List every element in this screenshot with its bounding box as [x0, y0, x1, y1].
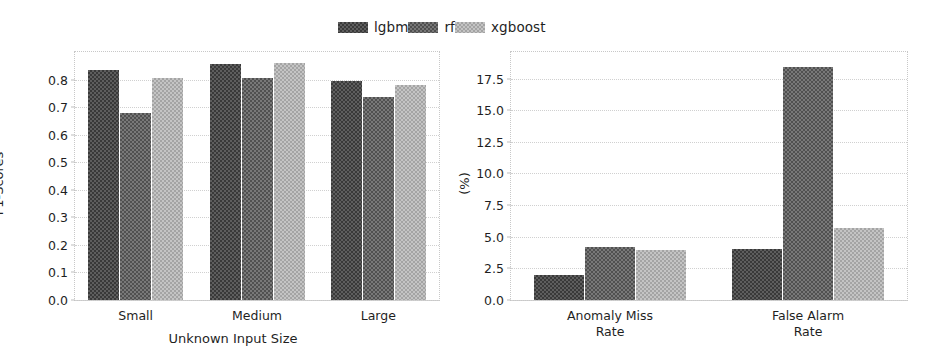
bar-lgbm — [732, 249, 782, 300]
bar-xgboost — [636, 250, 686, 300]
plot-area-error-rates: 0.02.55.07.510.012.515.017.5 Anomaly Mis… — [510, 51, 908, 301]
bar-xgboost — [395, 85, 426, 300]
y-tick-label: 0.5 — [48, 155, 68, 170]
y-tick-label: 0.0 — [484, 293, 504, 308]
y-tick-label: 5.0 — [484, 229, 504, 244]
gridline — [511, 300, 907, 301]
bar-rf — [783, 67, 833, 300]
x-tick-label: Anomaly Miss Rate — [567, 308, 653, 339]
y-tick-label: 2.5 — [484, 261, 504, 276]
bar-series-group — [511, 52, 907, 300]
y-tick-label: 0.2 — [48, 237, 68, 252]
y-tick-label: 0.8 — [48, 72, 68, 87]
y-tick-label: 0.4 — [48, 182, 68, 197]
x-tick-label: Small — [118, 308, 153, 324]
bar-series-group — [75, 52, 439, 300]
bar-lgbm — [331, 81, 362, 300]
bar-rf — [242, 78, 273, 300]
bar-lgbm — [210, 64, 241, 300]
y-tick-label: 0.6 — [48, 127, 68, 142]
bar-rf — [363, 97, 394, 300]
y-tick-label: 15.0 — [476, 103, 504, 118]
bar-xgboost — [274, 63, 305, 300]
y-tick-label: 0.7 — [48, 100, 68, 115]
y-axis-label: (%) — [457, 172, 472, 195]
x-axis-label: Unknown Input Size — [169, 331, 298, 346]
gridline — [75, 300, 439, 301]
bar-rf — [585, 247, 635, 300]
y-tick-label: 0.3 — [48, 210, 68, 225]
y-axis-label: F1-Scores — [0, 152, 6, 216]
chart-panel-error-rates: (%) 0.02.55.07.510.012.515.017.5 Anomaly… — [466, 0, 933, 361]
y-tick-label: 12.5 — [476, 134, 504, 149]
bar-rf — [120, 113, 151, 300]
bar-lgbm — [534, 275, 584, 300]
y-tick-label: 10.0 — [476, 166, 504, 181]
y-tick-label: 7.5 — [484, 198, 504, 213]
y-tick-label: 0.1 — [48, 265, 68, 280]
bar-lgbm — [88, 70, 119, 300]
bar-xgboost — [834, 228, 884, 300]
y-tick-label: 0.0 — [48, 293, 68, 308]
y-tick-label: 17.5 — [476, 71, 504, 86]
bar-xgboost — [152, 78, 183, 300]
x-tick-label: Medium — [232, 308, 282, 324]
x-tick-label: False Alarm Rate — [772, 308, 844, 339]
chart-panel-f1-scores: F1-Scores 0.00.10.20.30.40.50.60.70.8 Sm… — [0, 0, 466, 361]
x-tick-label: Large — [361, 308, 396, 324]
plot-area-f1-scores: 0.00.10.20.30.40.50.60.70.8 SmallMediumL… — [74, 51, 440, 301]
